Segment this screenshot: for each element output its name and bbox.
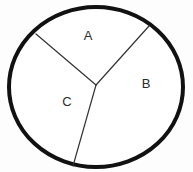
sector-label-c: C [62,94,71,109]
circle-diagram-canvas: A B C [0,0,193,172]
circle-sectors-figure: A B C [0,0,193,172]
sector-label-a: A [84,28,93,43]
sector-label-b: B [142,76,151,91]
